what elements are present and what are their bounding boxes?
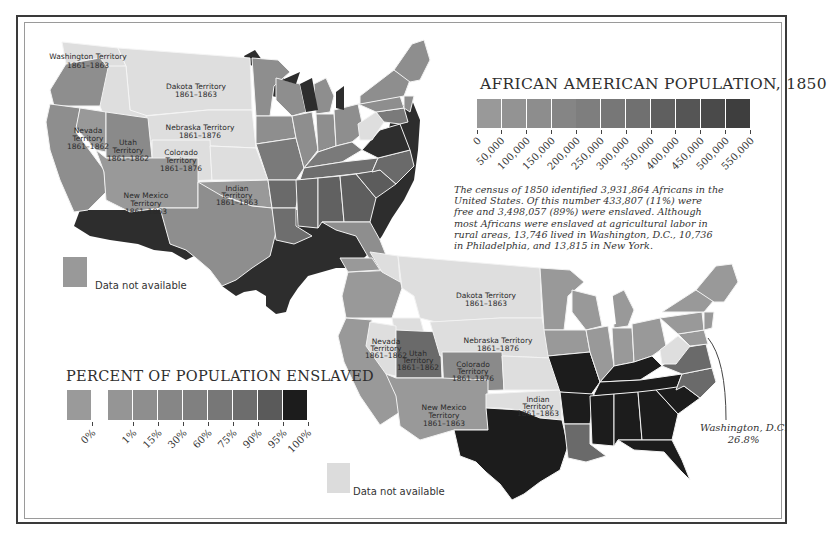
washington [340, 258, 380, 272]
enslaved-legend-tick [183, 422, 184, 426]
svg-text:1861–1862: 1861–1862 [67, 142, 109, 151]
population-legend-swatch [726, 99, 750, 128]
population-legend-tick [576, 130, 577, 134]
dakota-territory [398, 256, 542, 322]
wisconsin [572, 290, 602, 330]
mississippi [296, 178, 318, 228]
svg-text:1861–1876: 1861–1876 [477, 344, 519, 353]
enslaved-legend-swatch [258, 390, 282, 420]
svg-text:1861–1862: 1861–1862 [365, 351, 407, 360]
census-note: The census of 1850 identified 3,931,864 … [454, 184, 724, 251]
svg-text:1861–1863: 1861–1863 [465, 299, 507, 308]
population-legend-swatch [626, 99, 650, 128]
svg-text:1861–1863: 1861–1863 [517, 409, 559, 418]
population-legend-tick [675, 130, 676, 134]
indiana [612, 328, 634, 366]
dc-annotation-value: 26.8% [700, 434, 787, 446]
iowa [544, 330, 590, 356]
svg-text:1861–1863: 1861–1863 [423, 419, 465, 428]
enslaved-legend-swatch [108, 390, 132, 420]
svg-text:1861–1863: 1861–1863 [216, 198, 258, 207]
population-no-data-swatch [63, 257, 87, 287]
svg-text:1861–1863: 1861–1863 [125, 207, 167, 216]
label-washington: Washington Territory [49, 52, 127, 61]
population-legend-swatch [676, 99, 700, 128]
svg-text:1861–1876: 1861–1876 [179, 131, 221, 140]
dc-annotation-place: Washington, D.C. [700, 422, 787, 434]
enslaved-legend-swatch [133, 390, 157, 420]
enslaved-legend-swatch [67, 390, 91, 420]
population-legend-swatch [701, 99, 725, 128]
enslaved-legend-swatch [183, 390, 207, 420]
svg-text:1861–1876: 1861–1876 [160, 164, 202, 173]
enslaved-no-data-label: Data not available [353, 486, 445, 497]
new-jersey [704, 312, 714, 330]
arkansas [560, 392, 594, 424]
population-legend-swatch [502, 99, 526, 128]
population-legend-swatch [527, 99, 551, 128]
population-legend-tick [700, 130, 701, 134]
enslaved-legend-swatch [208, 390, 232, 420]
population-legend-tick [526, 130, 527, 134]
enslaved-legend-swatch [283, 390, 307, 420]
enslaved-legend-tick [133, 422, 134, 426]
svg-text:Washington Territory: Washington Territory [49, 52, 127, 61]
population-legend-swatch [651, 99, 675, 128]
enslaved-legend-tick [308, 422, 309, 426]
enslaved-legend-swatch [233, 390, 257, 420]
enslaved-legend-tick [233, 422, 234, 426]
alabama [318, 176, 344, 228]
population-legend-tick [477, 130, 478, 134]
population-legend-tick [501, 130, 502, 134]
enslaved-no-data-swatch [327, 463, 350, 493]
population-legend-tick [626, 130, 627, 134]
population-no-data-label: Data not available [95, 280, 187, 291]
svg-text:1861–1863: 1861–1863 [175, 90, 217, 99]
svg-text:1861–1862: 1861–1862 [397, 363, 439, 372]
population-legend-tick [725, 130, 726, 134]
enslaved-legend-title: PERCENT OF POPULATION ENSLAVED [66, 368, 374, 384]
arkansas [268, 180, 300, 208]
population-legend-swatch [576, 99, 600, 128]
population-legend-swatch [477, 99, 501, 128]
population-legend-tick [750, 130, 751, 134]
alabama [614, 392, 642, 446]
population-legend-swatch [552, 99, 576, 128]
enslaved-legend-swatch [158, 390, 182, 420]
population-legend-tick [551, 130, 552, 134]
svg-text:1861–1862: 1861–1862 [107, 154, 149, 163]
population-legend-swatch [601, 99, 625, 128]
enslaved-legend-tick [258, 422, 259, 426]
population-legend-tick [601, 130, 602, 134]
mississippi [590, 394, 614, 446]
enslaved-legend-tick [158, 422, 159, 426]
dc-annotation: Washington, D.C. 26.8% [700, 422, 787, 446]
population-legend-title: AFRICAN AMERICAN POPULATION, 1850 [480, 75, 827, 93]
florida [618, 440, 690, 480]
enslaved-legend-tick [283, 422, 284, 426]
population-legend-tick [651, 130, 652, 134]
pennsylvania [660, 312, 704, 334]
svg-text:1861–1863: 1861–1863 [67, 61, 109, 70]
indiana [316, 114, 336, 152]
svg-text:1861–1876: 1861–1876 [452, 374, 494, 383]
enslaved-legend-tick [208, 422, 209, 426]
enslaved-map [338, 252, 738, 500]
enslaved-legend-tick [92, 422, 93, 426]
